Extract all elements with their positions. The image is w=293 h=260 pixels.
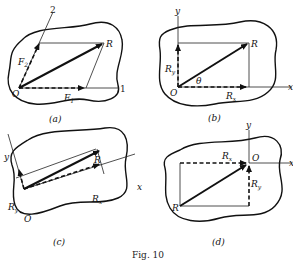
vector-R	[19, 44, 102, 88]
panel-label-b: (b)	[208, 113, 221, 123]
label-Rx: Rx	[225, 91, 237, 102]
label-F1: F1	[63, 93, 74, 104]
vector-R	[24, 151, 99, 189]
label-R: R	[250, 39, 258, 49]
label-R: R	[171, 203, 179, 213]
label-axis-2: 2	[50, 5, 56, 15]
panel-label-c: (c)	[53, 237, 66, 247]
label-axis-1: 1	[120, 84, 126, 94]
parallelogram-right	[86, 43, 104, 88]
label-O: O	[12, 89, 20, 99]
label-R: R	[93, 155, 101, 165]
vector-R	[178, 44, 247, 87]
panel-b: O R θ Rx Ry x y (b)	[159, 6, 293, 123]
label-Ry: Ry	[164, 64, 176, 76]
label-y: y	[174, 6, 181, 16]
label-Rx: Rx	[91, 194, 103, 205]
label-O: O	[170, 88, 178, 98]
x-axis	[24, 154, 135, 189]
vector-R	[180, 165, 246, 206]
label-R: R	[105, 39, 113, 49]
body-outline	[11, 128, 127, 215]
label-theta: θ	[196, 76, 202, 86]
figure-10-diagram: O R F1 F2 1 2 (a) O R θ Rx Ry x y (b) O	[0, 0, 293, 260]
label-y: y	[3, 152, 10, 162]
label-x: x	[289, 158, 293, 168]
figure-caption: Fig. 10	[132, 250, 164, 260]
label-x: x	[288, 82, 293, 92]
label-F2: F2	[17, 57, 28, 68]
panel-label-a: (a)	[49, 114, 62, 124]
vector-Ry	[19, 170, 24, 189]
label-y: y	[245, 120, 252, 130]
label-Ry: Ry	[250, 179, 262, 191]
label-O: O	[24, 214, 32, 224]
label-Rx: Rx	[221, 151, 233, 162]
label-x: x	[137, 182, 142, 192]
label-O: O	[252, 153, 260, 163]
panel-c: O R Rx Ry x y (c)	[3, 128, 142, 247]
panel-d: O R Rx Ry x y (d)	[164, 120, 293, 247]
label-Ry: Ry	[7, 202, 19, 214]
panel-label-d: (d)	[212, 237, 225, 247]
panel-a: O R F1 F2 1 2 (a)	[8, 5, 126, 124]
